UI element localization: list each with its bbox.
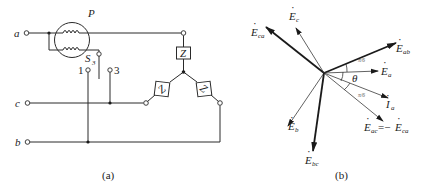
line-c: c <box>15 97 148 109</box>
caption-b: (b) <box>335 169 348 182</box>
terminal-a-label: a <box>14 27 20 39</box>
phasor-E-a <box>324 71 378 73</box>
switch-contact-3-label: 3 <box>114 64 120 76</box>
label-E-ab: E ab · <box>395 33 411 56</box>
terminal-load-top <box>181 31 186 36</box>
line-b: b <box>15 101 222 148</box>
phasor-E-ca <box>266 27 324 73</box>
junction-c <box>108 101 111 104</box>
phasor-E-c <box>296 28 324 73</box>
label-E-a: E a · <box>380 56 392 79</box>
terminal-a <box>24 31 29 36</box>
line-a: a <box>14 27 60 50</box>
impedance-right-label: Z <box>198 82 211 96</box>
switch-pivot <box>97 52 101 56</box>
svg-text:·: · <box>290 111 294 123</box>
label-E-c: E c · <box>288 1 300 24</box>
current-coil-icon <box>63 31 79 34</box>
label-E-b: E b · <box>287 111 299 134</box>
angle-arc-theta <box>341 72 343 81</box>
svg-text:·: · <box>383 56 387 68</box>
wattmeter-p: P <box>55 7 100 58</box>
label-E-ac: E ac · =− E ca · <box>363 112 409 135</box>
switch-contact-1 <box>86 68 90 72</box>
svg-text:·: · <box>366 112 370 124</box>
angle-label-lower: π/6 <box>358 92 365 98</box>
voltage-coil-icon <box>63 48 79 51</box>
svg-text:·: · <box>397 112 401 124</box>
svg-text:ca: ca <box>258 32 265 40</box>
svg-text:ab: ab <box>403 48 411 56</box>
impedance-left: Z <box>148 75 176 103</box>
switch-contact-1-label: 1 <box>78 64 84 76</box>
svg-text:=−: =− <box>378 121 390 133</box>
label-I-a: I a · <box>385 89 395 112</box>
svg-text:b: b <box>295 126 299 134</box>
svg-text:a: a <box>388 71 392 79</box>
terminal-b-label: b <box>15 136 21 148</box>
meter-label: P <box>87 7 95 19</box>
phasor-E-bc <box>313 73 324 151</box>
junction-b <box>86 140 89 143</box>
terminal-c-label: c <box>15 97 20 109</box>
star-load: Z Z Z <box>148 47 219 103</box>
impedance-left-label: Z <box>155 82 168 96</box>
switch-label: S <box>85 52 91 64</box>
terminal-b <box>25 140 30 145</box>
angle-arc-pi6-upper <box>346 64 347 72</box>
angle-label-theta: θ <box>352 72 358 84</box>
circuit-diagram-a: a P S 3 1 <box>14 7 222 182</box>
svg-text:c: c <box>296 16 300 24</box>
caption-a: (a) <box>102 169 115 182</box>
svg-text:a: a <box>391 104 395 112</box>
label-E-bc: E bc · <box>304 145 320 168</box>
impedance-right: Z <box>190 75 218 103</box>
impedance-top-label: Z <box>180 47 187 59</box>
svg-text:·: · <box>307 145 311 157</box>
svg-text:·: · <box>291 1 295 13</box>
switch-contact-3 <box>108 68 112 72</box>
svg-text:ca: ca <box>402 127 409 135</box>
switch-s3[interactable]: S 3 1 3 <box>78 52 120 142</box>
angle-label-upper: π/6 <box>358 57 365 63</box>
svg-text:·: · <box>386 89 390 101</box>
switch-subscript: 3 <box>91 59 96 67</box>
label-E-ca: E ca · <box>250 17 265 40</box>
svg-text:·: · <box>398 33 402 45</box>
phasor-diagram-b: π/6 θ π/6 E ca · E c · E ab · E a · I a … <box>250 1 411 182</box>
figure-canvas: a P S 3 1 <box>0 0 427 190</box>
svg-text:bc: bc <box>312 160 320 168</box>
terminal-c <box>25 101 30 106</box>
svg-text:·: · <box>253 17 257 29</box>
angle-arc-pi6-lower <box>344 83 350 90</box>
